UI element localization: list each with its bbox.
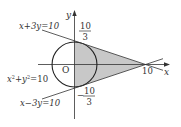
circle-label: x2+y2=10	[7, 74, 48, 85]
diagram-canvas: y x O x+3y=10 x−3y=10 x2+y2=10 10 3 − 10…	[0, 0, 181, 127]
svg-text:10: 10	[84, 86, 95, 96]
origin-label: O	[62, 65, 69, 75]
svg-text:3: 3	[87, 97, 92, 107]
y-intercept-lower-label: − 10 3	[77, 86, 95, 107]
y-axis-label: y	[65, 10, 72, 20]
y-intercept-upper-label: 10 3	[79, 21, 91, 42]
svg-text:10: 10	[80, 21, 91, 31]
line-lower-label: x−3y=10	[20, 98, 61, 108]
svg-text:3: 3	[83, 32, 88, 42]
line-upper-label: x+3y=10	[19, 21, 60, 31]
x-intercept-label: 10	[142, 66, 153, 76]
y-axis-arrow-icon	[72, 10, 76, 16]
x-axis-label: x	[164, 67, 169, 77]
